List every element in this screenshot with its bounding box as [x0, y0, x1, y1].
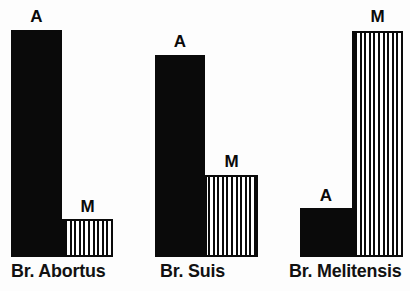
bar-chart-figure: A M Br. Abortus A M Br. Suis A M Br. Mel… — [0, 0, 410, 291]
bar-abortus-m — [62, 219, 113, 257]
group-caption-abortus: Br. Abortus — [11, 261, 106, 281]
bar-suis-a — [155, 55, 205, 257]
bar-abortus-a — [11, 30, 62, 257]
bar-melitensis-a — [300, 208, 352, 257]
bar-label-melitensis-m: M — [352, 8, 403, 25]
bar-suis-m — [205, 175, 258, 257]
baseline-abortus — [11, 255, 113, 257]
baseline-melitensis — [300, 255, 403, 257]
bar-label-abortus-a: A — [11, 8, 62, 25]
bar-label-abortus-m: M — [62, 198, 113, 215]
bar-label-melitensis-a: A — [300, 187, 352, 204]
baseline-suis — [155, 255, 258, 257]
bar-melitensis-m — [352, 31, 403, 257]
bar-label-suis-m: M — [205, 153, 258, 170]
group-caption-melitensis: Br. Melitensis — [289, 261, 402, 281]
group-caption-suis: Br. Suis — [160, 261, 225, 281]
bar-label-suis-a: A — [155, 33, 205, 50]
